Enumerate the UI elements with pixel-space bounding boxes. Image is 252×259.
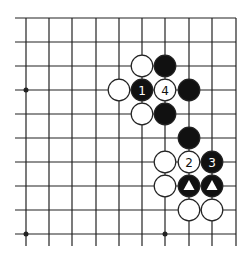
star-point	[24, 232, 29, 237]
move-number-label: 1	[138, 84, 146, 98]
white-stone	[201, 199, 223, 221]
black-stone	[178, 175, 200, 197]
move-number-label: 3	[208, 156, 216, 170]
white-stone	[154, 175, 176, 197]
black-stone: 1	[131, 79, 153, 101]
black-stone: 3	[201, 151, 223, 173]
white-stone	[131, 103, 153, 125]
black-stone	[178, 79, 200, 101]
move-number-label: 2	[185, 156, 193, 170]
black-stone	[154, 55, 176, 77]
white-stone	[131, 55, 153, 77]
star-point	[163, 232, 168, 237]
white-stone	[154, 151, 176, 173]
black-stone	[201, 175, 223, 197]
white-stone	[108, 79, 130, 101]
black-stone	[154, 103, 176, 125]
black-stone	[178, 127, 200, 149]
star-point	[24, 88, 29, 93]
go-board: 1423	[0, 0, 252, 259]
white-stone: 4	[154, 79, 176, 101]
white-stone	[178, 199, 200, 221]
white-stone: 2	[178, 151, 200, 173]
move-number-label: 4	[161, 84, 169, 98]
